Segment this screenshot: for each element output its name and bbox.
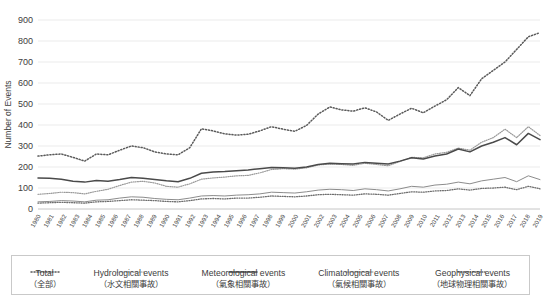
- x-tick-label: 2010: [415, 213, 428, 229]
- y-axis-tick-labels: 0100200300400500600700800900: [18, 15, 33, 214]
- legend-item-total[interactable]: Total（全部）: [12, 261, 77, 290]
- x-tick-label: 2008: [389, 213, 402, 229]
- series-line-total: [38, 33, 540, 162]
- x-tick-label: 1989: [145, 213, 158, 229]
- x-tick-label: 2014: [467, 213, 480, 229]
- x-tick-label: 1995: [222, 213, 235, 229]
- x-tick-label: 2019: [531, 213, 544, 229]
- x-tick-label: 2012: [441, 213, 454, 229]
- y-tick-label: 600: [18, 78, 33, 88]
- x-tick-label: 1985: [93, 213, 106, 229]
- y-tick-label: 0: [28, 204, 33, 214]
- y-tick-label: 800: [18, 36, 33, 46]
- y-tick-label: 500: [18, 99, 33, 109]
- x-tick-label: 1986: [106, 213, 119, 229]
- x-tick-label: 1988: [132, 213, 145, 229]
- data-series-layer: [38, 33, 540, 204]
- legend-swatch-icon: [228, 261, 258, 267]
- x-tick-label: 2000: [286, 213, 299, 229]
- x-tick-label: 2004: [338, 213, 351, 229]
- x-tick-label: 2013: [454, 213, 467, 229]
- y-tick-label: 100: [18, 183, 33, 193]
- x-tick-label: 1987: [119, 213, 132, 229]
- x-tick-label: 1997: [248, 213, 261, 229]
- x-tick-label: 2016: [492, 213, 505, 229]
- legend-swatch-icon: [30, 261, 60, 267]
- legend-label-en: Total: [35, 268, 53, 279]
- y-tick-label: 300: [18, 141, 33, 151]
- legend-label-en: Geophysical events: [435, 268, 510, 279]
- y-axis-title: Number of Events: [3, 80, 13, 148]
- legend-label-zh: （水文相關事故）: [99, 279, 163, 290]
- x-tick-label: 2003: [325, 213, 338, 229]
- x-tick-label: 1996: [235, 213, 248, 229]
- y-tick-label: 700: [18, 57, 33, 67]
- x-tick-label: 1991: [171, 213, 184, 229]
- x-tick-label: 1992: [183, 213, 196, 229]
- y-tick-label: 900: [18, 15, 33, 25]
- x-tick-label: 2007: [376, 213, 389, 229]
- legend-swatch-icon: [457, 261, 487, 267]
- x-tick-label: 1983: [68, 213, 81, 229]
- x-tick-label: 2011: [428, 213, 441, 229]
- x-tick-label: 1994: [209, 213, 222, 229]
- x-tick-label: 2018: [518, 213, 531, 229]
- legend-item-hydrological-events[interactable]: Hydrological events（水文相關事故）: [77, 261, 185, 290]
- x-tick-label: 2001: [299, 213, 312, 229]
- x-tick-label: 2009: [402, 213, 415, 229]
- x-tick-label: 1999: [273, 213, 286, 229]
- legend-swatch-icon: [344, 261, 374, 267]
- legend-label-zh: （氣象相關事故）: [211, 279, 275, 290]
- legend-swatch-icon: [116, 261, 146, 267]
- legend-label-en: Meteorological events: [202, 268, 286, 279]
- x-tick-label: 2017: [505, 213, 518, 229]
- line-chart: 0100200300400500600700800900 19801981198…: [0, 0, 544, 248]
- x-axis-tick-labels: 1980198119821983198419851986198719881989…: [29, 213, 544, 229]
- x-tick-label: 1980: [29, 213, 42, 229]
- legend-label-zh: （氣候相關事故）: [327, 279, 391, 290]
- x-tick-label: 1981: [42, 213, 55, 229]
- x-tick-label: 1998: [261, 213, 274, 229]
- x-tick-label: 2006: [364, 213, 377, 229]
- chart-page: 0100200300400500600700800900 19801981198…: [0, 0, 544, 308]
- legend-item-geophysical-events[interactable]: Geophysical events（地球物理相關事故）: [416, 261, 529, 290]
- legend-label-zh: （全部）: [29, 279, 61, 290]
- legend-item-meteorological-events[interactable]: Meteorological events（氣象相關事故）: [185, 261, 302, 290]
- x-tick-label: 2005: [351, 213, 364, 229]
- series-line-geophysical-events: [38, 186, 540, 203]
- series-line-climatological-events: [38, 176, 540, 202]
- chart-legend: Total（全部）Hydrological events（水文相關事故）Mete…: [11, 255, 530, 295]
- legend-item-climatological-events[interactable]: Climatological events（氣候相關事故）: [302, 261, 416, 290]
- series-line-meteorological-events: [38, 133, 540, 182]
- x-tick-label: 2015: [479, 213, 492, 229]
- y-tick-label: 200: [18, 162, 33, 172]
- legend-label-en: Hydrological events: [94, 268, 169, 279]
- series-line-hydrological-events: [38, 127, 540, 195]
- chart-plot-area: 0100200300400500600700800900 19801981198…: [0, 0, 544, 248]
- legend-label-en: Climatological events: [318, 268, 399, 279]
- x-tick-label: 1990: [158, 213, 171, 229]
- y-tick-label: 400: [18, 120, 33, 130]
- x-tick-label: 2002: [312, 213, 325, 229]
- x-tick-label: 1993: [196, 213, 209, 229]
- x-tick-label: 1982: [55, 213, 68, 229]
- legend-label-zh: （地球物理相關事故）: [432, 279, 512, 290]
- x-tick-label: 1984: [80, 213, 93, 229]
